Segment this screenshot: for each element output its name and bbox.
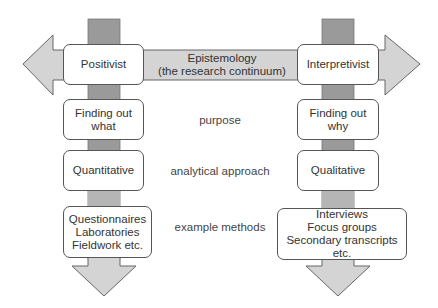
purpose-what-line1: Finding out: [75, 107, 132, 120]
row-label-approach: analytical approach: [160, 165, 280, 177]
positivist-label: Positivist: [81, 58, 126, 71]
purpose-why-line1: Finding out: [310, 107, 367, 120]
method-item: Questionnaires: [69, 213, 146, 226]
interpretivist-box: Interpretivist: [297, 44, 379, 85]
left-bar-segment: [88, 191, 120, 207]
continuum-subtitle: (the research continuum): [150, 65, 294, 78]
continuum-title: Epistemology: [150, 52, 294, 65]
method-item: Secondary transcripts etc.: [278, 234, 406, 260]
method-item: Interviews: [316, 208, 368, 221]
interpretivist-label: Interpretivist: [307, 58, 370, 71]
right-down-arrow: [306, 259, 370, 296]
left-down-arrow: [72, 257, 136, 296]
quantitative-label: Quantitative: [73, 164, 134, 177]
row-label-purpose: purpose: [170, 114, 270, 126]
positivist-box: Positivist: [63, 44, 144, 85]
qualitative-box: Qualitative: [297, 150, 379, 191]
purpose-what-line2: what: [91, 120, 115, 133]
purpose-why-line2: why: [328, 120, 348, 133]
row-label-methods: example methods: [160, 221, 280, 233]
continuum-label: Epistemology (the research continuum): [150, 52, 294, 78]
left-methods-box: Questionnaires Laboratories Fieldwork et…: [63, 206, 152, 258]
right-bar-segment: [322, 191, 354, 209]
qualitative-label: Qualitative: [311, 164, 365, 177]
method-item: Focus groups: [307, 221, 377, 234]
purpose-why-box: Finding out why: [297, 99, 379, 140]
method-item: Fieldwork etc.: [72, 239, 143, 252]
purpose-what-box: Finding out what: [63, 99, 144, 140]
method-item: Laboratories: [76, 226, 140, 239]
right-methods-box: Interviews Focus groups Secondary transc…: [277, 208, 407, 260]
quantitative-box: Quantitative: [63, 150, 144, 191]
